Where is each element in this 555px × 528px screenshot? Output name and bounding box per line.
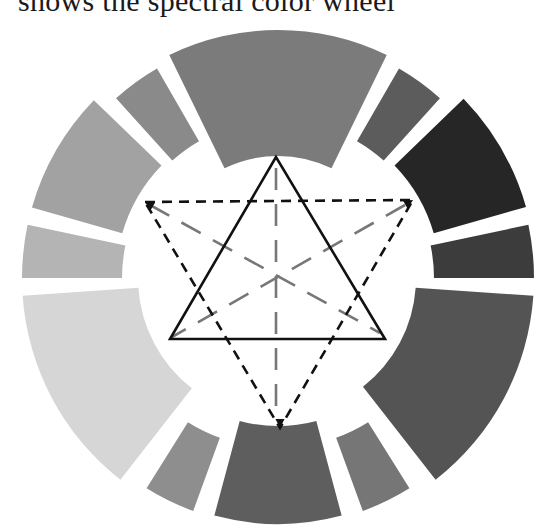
segment-lower-left-small xyxy=(147,422,220,511)
segment-lower-left xyxy=(23,288,192,480)
segment-lower-right xyxy=(363,288,533,480)
segment-right-small xyxy=(431,225,534,278)
segment-bottom xyxy=(214,421,341,524)
center-axis-lines xyxy=(150,168,405,410)
color-wheel-diagram xyxy=(0,0,555,528)
segment-lower-right-small xyxy=(336,422,409,511)
gray-dashed-axis-2 xyxy=(172,205,405,337)
segment-left-small xyxy=(22,225,125,278)
solid-triangle xyxy=(170,157,385,339)
segment-top xyxy=(169,30,386,168)
